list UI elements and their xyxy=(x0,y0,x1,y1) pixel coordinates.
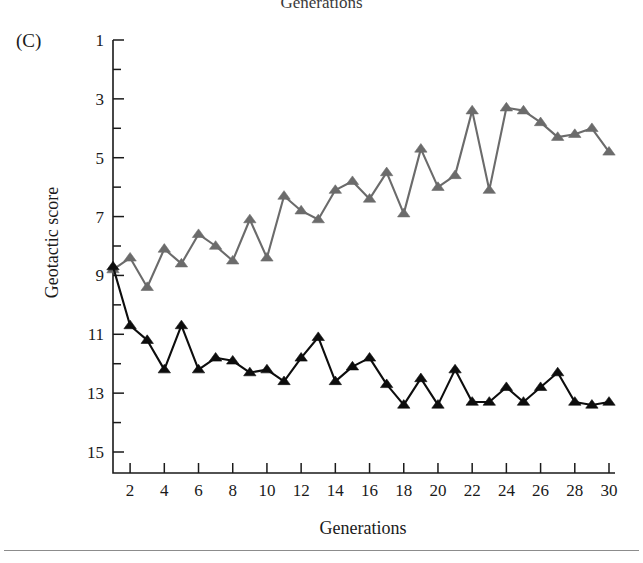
data-point-marker xyxy=(329,185,341,194)
data-point-marker xyxy=(124,252,136,261)
x-axis-tick-label: 18 xyxy=(395,481,412,500)
data-point-marker xyxy=(261,364,273,373)
data-point-marker xyxy=(432,400,444,409)
data-point-marker xyxy=(312,332,324,341)
y-axis-tick-label: 13 xyxy=(87,384,104,403)
y-axis-tick-label: 9 xyxy=(96,266,105,285)
x-axis-tick-label: 30 xyxy=(601,481,618,500)
data-point-marker xyxy=(500,102,512,111)
data-point-marker xyxy=(380,167,392,176)
y-axis-tick-label: 1 xyxy=(96,31,105,50)
data-point-marker xyxy=(261,252,273,261)
x-axis-tick-label: 28 xyxy=(566,481,583,500)
x-axis-tick-label: 4 xyxy=(160,481,169,500)
series-line xyxy=(113,108,609,288)
data-series-group xyxy=(107,102,615,408)
x-axis-tick-label: 2 xyxy=(126,481,135,500)
series-line xyxy=(113,267,609,405)
figure-panel-c: Generations (C) 135791113152468101214161… xyxy=(0,0,643,563)
series-negative-geotaxis-selected-line xyxy=(107,102,615,290)
data-point-marker xyxy=(124,320,136,329)
y-axis-tick-label: 5 xyxy=(96,149,105,168)
x-axis-tick-label: 14 xyxy=(327,481,345,500)
data-point-marker xyxy=(312,214,324,223)
x-axis-tick-label: 20 xyxy=(429,481,446,500)
y-axis-tick-label: 15 xyxy=(87,443,104,462)
data-point-marker xyxy=(175,320,187,329)
data-point-marker xyxy=(398,208,410,217)
x-axis-tick-label: 8 xyxy=(228,481,237,500)
x-axis-tick-label: 26 xyxy=(532,481,549,500)
y-axis-tick-label: 7 xyxy=(96,208,105,227)
data-point-marker xyxy=(603,147,615,156)
x-axis-tick-label: 12 xyxy=(293,481,310,500)
y-axis-title: Geotactic score xyxy=(42,143,63,343)
x-axis-tick-label: 24 xyxy=(498,481,516,500)
data-point-marker xyxy=(363,353,375,362)
line-chart-plot: 1357911131524681012141618202224262830 xyxy=(0,0,643,563)
data-point-marker xyxy=(483,185,495,194)
data-point-marker xyxy=(141,282,153,291)
data-point-marker xyxy=(278,191,290,200)
data-point-marker xyxy=(603,397,615,406)
data-point-marker xyxy=(449,170,461,179)
data-point-marker xyxy=(244,214,256,223)
data-point-marker xyxy=(415,373,427,382)
x-axis-tick-label: 6 xyxy=(194,481,203,500)
data-point-marker xyxy=(346,176,358,185)
data-point-marker xyxy=(449,364,461,373)
axes-group: 1357911131524681012141618202224262830 xyxy=(87,31,618,500)
data-point-marker xyxy=(158,244,170,253)
x-axis-title: Generations xyxy=(113,518,613,539)
data-point-marker xyxy=(500,382,512,391)
data-point-marker xyxy=(192,229,204,238)
x-axis-tick-label: 10 xyxy=(258,481,275,500)
y-axis-tick-label: 3 xyxy=(96,90,105,109)
x-axis-tick-label: 22 xyxy=(464,481,481,500)
y-axis-tick-label: 11 xyxy=(88,325,104,344)
data-point-marker xyxy=(158,364,170,373)
bottom-divider-rule xyxy=(4,550,639,551)
x-axis-tick-label: 16 xyxy=(361,481,378,500)
axis-spines xyxy=(113,40,615,473)
data-point-marker xyxy=(586,123,598,132)
data-point-marker xyxy=(346,361,358,370)
data-point-marker xyxy=(551,367,563,376)
data-point-marker xyxy=(466,105,478,114)
data-point-marker xyxy=(380,379,392,388)
data-point-marker xyxy=(569,397,581,406)
data-point-marker xyxy=(209,353,221,362)
data-point-marker xyxy=(415,144,427,153)
series-positive-geotaxis-selected-line xyxy=(107,261,615,408)
